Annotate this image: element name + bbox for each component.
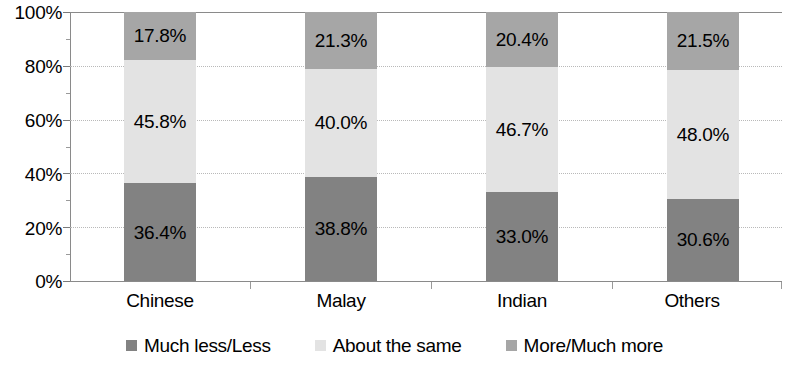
legend-item-about-the-same[interactable]: About the same: [315, 336, 462, 355]
plot-area: 36.4% 45.8% 17.8% 38.8% 40.0% 21.3%: [70, 12, 782, 281]
bar-segment-malay-much-less-less[interactable]: 38.8%: [305, 177, 377, 281]
legend-swatch-icon: [126, 340, 137, 351]
bar-value-label: 48.0%: [677, 125, 729, 144]
x-tick-1: [250, 282, 251, 289]
legend-label: More/Much more: [524, 336, 663, 355]
bar-segment-indian-more-much-more[interactable]: 20.4%: [486, 12, 558, 67]
bar-value-label: 40.0%: [315, 113, 367, 132]
bar-value-label: 36.4%: [134, 223, 186, 242]
bar-indian[interactable]: 33.0% 46.7% 20.4%: [486, 12, 558, 281]
x-axis-label-indian: Indian: [432, 291, 612, 310]
legend-swatch-icon: [506, 340, 517, 351]
x-tick-4: [781, 282, 782, 289]
y-tick-label-100: 100%: [0, 3, 62, 22]
bar-segment-malay-more-much-more[interactable]: 21.3%: [305, 12, 377, 69]
y-tick-major-100: [63, 12, 70, 13]
bar-value-label: 30.6%: [677, 230, 729, 249]
y-tick-minor-30: [66, 200, 70, 201]
bar-segment-indian-much-less-less[interactable]: 33.0%: [486, 192, 558, 281]
stacked-bar-chart: 100% 80% 60% 40% 20% 0% 36.4%: [0, 0, 789, 367]
bar-chinese[interactable]: 36.4% 45.8% 17.8%: [124, 12, 196, 281]
bar-value-label: 45.8%: [134, 112, 186, 131]
x-tick-3: [612, 282, 613, 289]
x-axis-label-others: Others: [602, 291, 782, 310]
y-tick-minor-10: [66, 254, 70, 255]
bar-segment-others-more-much-more[interactable]: 21.5%: [667, 12, 739, 70]
y-tick-major-0: [63, 281, 70, 282]
bar-segment-indian-about-the-same[interactable]: 46.7%: [486, 67, 558, 193]
bar-malay[interactable]: 38.8% 40.0% 21.3%: [305, 12, 377, 281]
y-tick-label-0: 0%: [0, 272, 62, 291]
y-tick-major-60: [63, 120, 70, 121]
y-tick-label-60: 60%: [0, 111, 62, 130]
bar-segment-chinese-about-the-same[interactable]: 45.8%: [124, 60, 196, 183]
y-tick-major-20: [63, 227, 70, 228]
legend-label: About the same: [333, 336, 462, 355]
y-tick-minor-50: [66, 147, 70, 148]
x-axis-label-chinese: Chinese: [70, 291, 250, 310]
bar-value-label: 21.5%: [677, 31, 729, 50]
bar-value-label: 17.8%: [134, 26, 186, 45]
bar-segment-others-much-less-less[interactable]: 30.6%: [667, 199, 739, 281]
chart-legend: Much less/Less About the same More/Much …: [0, 336, 789, 355]
y-tick-minor-90: [66, 39, 70, 40]
bar-others[interactable]: 30.6% 48.0% 21.5%: [667, 12, 739, 281]
bar-segment-malay-about-the-same[interactable]: 40.0%: [305, 69, 377, 177]
y-tick-major-40: [63, 173, 70, 174]
legend-item-much-less-less[interactable]: Much less/Less: [126, 336, 271, 355]
legend-item-more-much-more[interactable]: More/Much more: [506, 336, 663, 355]
y-axis-labels: 100% 80% 60% 40% 20% 0%: [0, 0, 62, 300]
y-tick-label-40: 40%: [0, 165, 62, 184]
bar-segment-chinese-more-much-more[interactable]: 17.8%: [124, 12, 196, 60]
bar-segment-chinese-much-less-less[interactable]: 36.4%: [124, 183, 196, 281]
y-tick-label-80: 80%: [0, 57, 62, 76]
bar-value-label: 38.8%: [315, 219, 367, 238]
bar-value-label: 46.7%: [496, 120, 548, 139]
y-tick-label-20: 20%: [0, 219, 62, 238]
x-tick-2: [431, 282, 432, 289]
y-tick-major-80: [63, 66, 70, 67]
y-tick-minor-70: [66, 93, 70, 94]
legend-label: Much less/Less: [144, 336, 271, 355]
bar-value-label: 20.4%: [496, 30, 548, 49]
bar-value-label: 33.0%: [496, 227, 548, 246]
gridline-0-axis: [70, 281, 782, 282]
legend-swatch-icon: [315, 340, 326, 351]
bar-segment-others-about-the-same[interactable]: 48.0%: [667, 70, 739, 199]
x-axis-label-malay: Malay: [251, 291, 431, 310]
bar-value-label: 21.3%: [315, 31, 367, 50]
